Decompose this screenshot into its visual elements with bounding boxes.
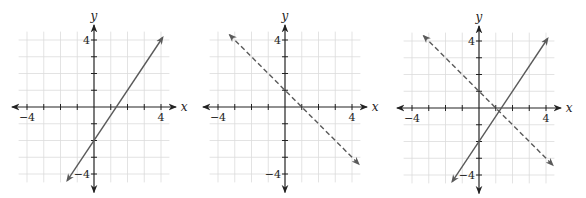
x-tick-label-4: 4 bbox=[158, 111, 165, 124]
x-tick-label-neg4: −4 bbox=[210, 111, 226, 124]
x-axis-label: x bbox=[181, 100, 188, 114]
line-2-dashed bbox=[424, 36, 553, 165]
y-tick-label-4: 4 bbox=[274, 34, 281, 47]
x-axis-label: x bbox=[566, 101, 573, 115]
y-tick-label-4: 4 bbox=[468, 35, 475, 48]
y-axis-label: y bbox=[90, 9, 98, 23]
graph-canvas: −444−4xy bbox=[385, 0, 581, 198]
coordinate-graph-3: −444−4xy bbox=[385, 0, 581, 198]
coordinate-graph-1: −444−4xy bbox=[0, 0, 196, 198]
y-tick-label-neg4: −4 bbox=[459, 169, 475, 182]
graph-canvas: −444−4xy bbox=[0, 0, 196, 198]
graph-canvas: −444−4xy bbox=[191, 0, 387, 198]
x-tick-label-4: 4 bbox=[349, 111, 356, 124]
x-axis-label: x bbox=[372, 100, 379, 114]
x-tick-label-neg4: −4 bbox=[19, 111, 35, 124]
y-axis-label: y bbox=[281, 9, 289, 23]
x-tick-label-neg4: −4 bbox=[404, 112, 420, 125]
coordinate-graph-2: −444−4xy bbox=[191, 0, 387, 198]
line-2-dashed bbox=[230, 35, 359, 164]
y-tick-label-4: 4 bbox=[83, 34, 90, 47]
y-axis-label: y bbox=[475, 10, 483, 24]
y-tick-label-neg4: −4 bbox=[74, 168, 90, 181]
y-tick-label-neg4: −4 bbox=[265, 168, 281, 181]
x-tick-label-4: 4 bbox=[543, 112, 550, 125]
line-1-solid bbox=[452, 38, 547, 181]
line-1-solid bbox=[67, 37, 162, 180]
